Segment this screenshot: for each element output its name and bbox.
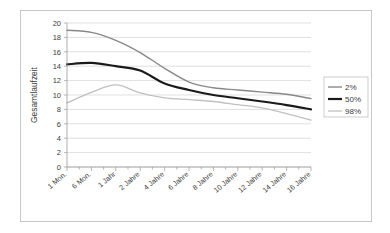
y-tick-label: 6	[57, 120, 61, 129]
y-tick-label: 2	[57, 148, 61, 157]
x-axis-tickmarks	[67, 167, 311, 171]
y-tick-label: 12	[53, 76, 61, 85]
y-tick-label: 10	[53, 91, 61, 100]
x-tick-label: 6 Jahre	[166, 170, 190, 192]
x-tick-label: 4 Jahre	[142, 170, 166, 192]
x-tick-label: 1 Mon.	[46, 170, 69, 191]
chart-legend: 2%50%98%	[324, 77, 368, 117]
x-tick-label: 14 Jahre	[261, 170, 288, 195]
y-tick-label: 20	[53, 19, 61, 28]
y-tick-label: 8	[57, 105, 61, 114]
x-tick-label: 6 Mon.	[70, 170, 93, 191]
y-axis-title: Gesamtlaufzeit	[29, 66, 39, 123]
x-tick-label: 2 Jahre	[117, 170, 141, 192]
legend-label-98pct: 98%	[345, 107, 361, 116]
y-tick-label: 18	[53, 33, 61, 42]
x-tick-label: 8 Jahre	[191, 170, 215, 192]
y-axis-tick-labels: 02468101214161820	[53, 19, 61, 172]
series-line-50pct	[67, 63, 311, 109]
y-tick-label: 4	[57, 134, 61, 143]
line-chart-plot: 02468101214161820 1 Mon.6 Mon.1 Jahr2 Ja…	[21, 11, 373, 223]
x-tick-label: 10 Jahre	[212, 170, 239, 195]
y-axis-tickmarks	[64, 23, 67, 167]
y-tick-label: 16	[53, 48, 61, 57]
x-tick-label: 1 Jahr	[96, 169, 118, 189]
y-tick-label: 14	[53, 62, 61, 71]
legend-label-50pct: 50%	[345, 95, 361, 104]
x-axis-tick-labels: 1 Mon.6 Mon.1 Jahr2 Jahre4 Jahre6 Jahre8…	[46, 169, 313, 194]
chart-container: 02468101214161820 1 Mon.6 Mon.1 Jahr2 Ja…	[20, 10, 372, 222]
gridlines-group	[67, 23, 311, 167]
data-series-group	[67, 30, 311, 120]
x-tick-label: 12 Jahre	[236, 170, 263, 195]
x-tick-label: 16 Jahre	[285, 170, 312, 195]
legend-label-2pct: 2%	[345, 83, 357, 92]
